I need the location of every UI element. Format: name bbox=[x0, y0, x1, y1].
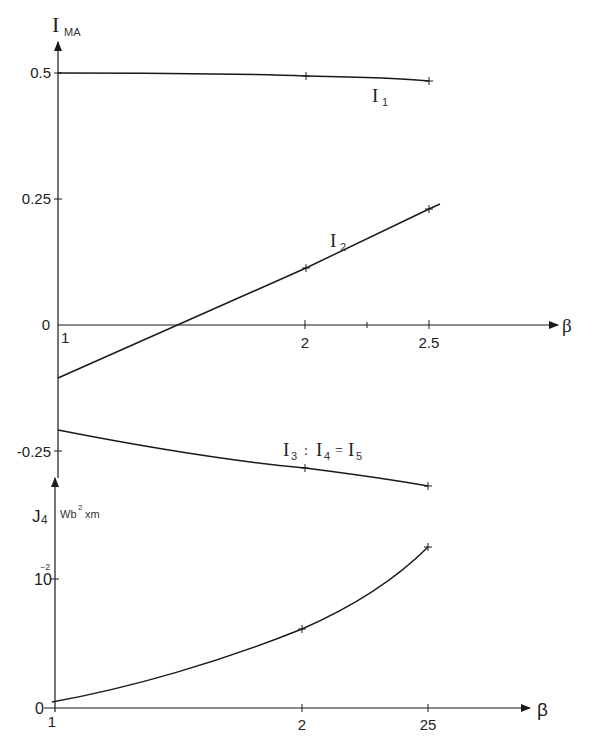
bottom-chart: J 4 Wb 2 xm β 0 10 −2 1 2 25 bbox=[32, 478, 548, 733]
top-y-axis-sublabel: MA bbox=[64, 26, 81, 38]
series-I1-markers bbox=[302, 72, 433, 85]
svg-text:2: 2 bbox=[78, 503, 83, 512]
x-tick-2: 2 bbox=[298, 716, 306, 733]
series-I3-I4-I5-line bbox=[58, 430, 428, 486]
svg-text:−2: −2 bbox=[40, 562, 50, 572]
svg-text:I: I bbox=[316, 439, 322, 460]
svg-text:Wb: Wb bbox=[60, 508, 77, 520]
series-I2-sublabel: 2 bbox=[340, 241, 346, 253]
y-tick-0.5: 0.5 bbox=[30, 64, 51, 81]
x-tick-2: 2 bbox=[301, 334, 309, 351]
y-tick-10e-2: 10 −2 bbox=[34, 562, 52, 588]
svg-text:I: I bbox=[283, 439, 289, 460]
series-I1-label: I bbox=[372, 85, 378, 106]
y-tick-0.25: 0.25 bbox=[22, 190, 51, 207]
series-I1-line bbox=[58, 73, 429, 81]
series-I2-label: I bbox=[330, 230, 336, 251]
bottom-y-axis-label: J bbox=[32, 507, 41, 526]
bottom-y-axis-unit: Wb 2 xm bbox=[60, 503, 100, 520]
svg-text:4: 4 bbox=[324, 450, 330, 462]
svg-text:5: 5 bbox=[356, 450, 362, 462]
x-tick-1: 1 bbox=[48, 713, 56, 730]
series-I2-line bbox=[58, 204, 440, 378]
svg-text::: : bbox=[304, 443, 308, 458]
series-I3-I4-I5-label: I 3 : I 4 = I 5 bbox=[283, 439, 362, 462]
bottom-x-axis-label: β bbox=[537, 699, 548, 720]
top-y-axis-label: I bbox=[52, 12, 59, 37]
x-tick-2.5: 2.5 bbox=[419, 334, 440, 351]
y-tick-minus-0.25: -0.25 bbox=[17, 443, 51, 460]
x-tick-2.5: 25 bbox=[420, 716, 437, 733]
svg-text:=: = bbox=[335, 443, 343, 458]
top-chart: I MA β 0.5 0.25 0 -0.25 1 2 2.5 I 1 bbox=[17, 12, 572, 490]
y-tick-0: 0 bbox=[35, 700, 44, 717]
top-x-axis-label: β bbox=[562, 315, 572, 336]
svg-text:xm: xm bbox=[85, 508, 100, 520]
series-J4-line bbox=[52, 547, 428, 702]
bottom-y-axis-sublabel: 4 bbox=[41, 513, 48, 527]
y-tick-0: 0 bbox=[42, 316, 50, 333]
series-J4-markers bbox=[298, 543, 432, 633]
series-I1-sublabel: 1 bbox=[382, 96, 388, 108]
svg-text:I: I bbox=[348, 439, 354, 460]
x-tick-1: 1 bbox=[61, 329, 69, 346]
svg-text:10: 10 bbox=[34, 571, 52, 588]
figure-canvas: I MA β 0.5 0.25 0 -0.25 1 2 2.5 I 1 bbox=[0, 0, 601, 740]
svg-text:3: 3 bbox=[291, 450, 297, 462]
